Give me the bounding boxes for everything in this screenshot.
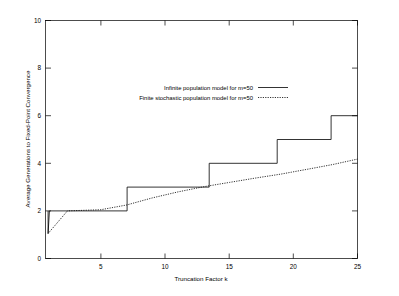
series-line-infinite-population xyxy=(48,116,357,234)
y-tick-label: 6 xyxy=(37,112,41,119)
series-line-finite-stochastic xyxy=(48,159,357,233)
legend-label-infinite-population: Infinite population model for m=50 xyxy=(164,85,254,91)
x-tick-label: 5 xyxy=(99,263,103,270)
y-tick-label: 2 xyxy=(37,207,41,214)
x-tick-label: 15 xyxy=(226,263,234,270)
x-tick-label: 20 xyxy=(290,263,298,270)
x-tick-label: 25 xyxy=(354,263,362,270)
chart-figure: 0 2 4 6 8 10 5 10 15 20 25 Truncation Fa… xyxy=(0,0,399,296)
y-axis-title: Average Generations to Fixed-Point Conve… xyxy=(24,70,31,207)
y-tick-label: 4 xyxy=(37,160,41,167)
x-tick-label: 10 xyxy=(161,263,169,270)
legend: Infinite population model for m=50 Finit… xyxy=(139,85,288,101)
y-tick-label: 10 xyxy=(34,17,42,24)
y-tick-label: 8 xyxy=(37,64,41,71)
series-plot-area xyxy=(48,116,357,234)
legend-label-finite-stochastic: Finite stochastic population model for m… xyxy=(139,95,254,101)
x-axis: 5 10 15 20 25 xyxy=(99,21,361,271)
y-tick-label: 0 xyxy=(37,255,41,262)
x-axis-title: Truncation Factor k xyxy=(174,275,228,282)
